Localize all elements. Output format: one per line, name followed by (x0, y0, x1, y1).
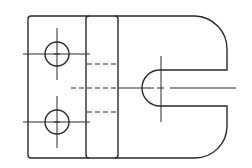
outer-profile (28, 16, 227, 158)
band-right-edge (115, 16, 118, 158)
technical-drawing (0, 0, 252, 168)
drawing-canvas (0, 0, 252, 168)
hole-top (23, 28, 90, 80)
hole-bottom (23, 96, 90, 148)
band-left-edge (86, 16, 89, 158)
